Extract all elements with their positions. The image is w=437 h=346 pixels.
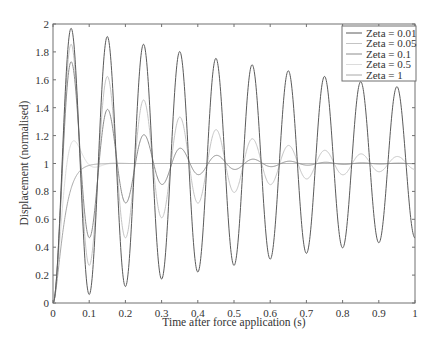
x-axis-label: Time after force application (s): [162, 316, 305, 329]
y-tick-label: 1.6: [35, 74, 49, 86]
legend: Zeta = 0.01Zeta = 0.05Zeta = 0.1Zeta = 0…: [342, 26, 417, 81]
x-tick-label: 1: [412, 307, 418, 319]
y-tick-label: 0: [44, 297, 50, 309]
y-tick-label: 1.4: [35, 102, 49, 114]
x-tick-label: 0: [50, 307, 56, 319]
y-tick-label: 1.8: [35, 46, 49, 58]
y-tick-label: 1: [44, 158, 50, 170]
y-tick-label: 0.8: [35, 185, 49, 197]
x-tick-label: 0.2: [119, 307, 133, 319]
legend-label: Zeta = 1: [366, 69, 403, 81]
y-tick-label: 0.2: [35, 269, 49, 281]
y-tick-labels: 00.20.40.60.811.21.41.61.82: [35, 18, 49, 309]
y-tick-label: 0.6: [35, 213, 49, 225]
y-axis-label: Displacement (normalised): [18, 100, 31, 225]
y-tick-label: 1.2: [35, 130, 49, 142]
y-tick-label: 0.4: [35, 241, 49, 253]
x-tick-label: 0.1: [82, 307, 96, 319]
chart: 00.10.20.30.40.50.60.70.80.91 00.20.40.6…: [0, 0, 437, 346]
x-tick-label: 0.9: [372, 307, 386, 319]
x-tick-label: 0.8: [336, 307, 350, 319]
y-tick-label: 2: [44, 18, 50, 30]
